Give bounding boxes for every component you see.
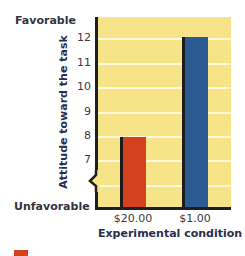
x-axis-line [95, 207, 231, 210]
y-tick-10: 10 [77, 80, 91, 93]
y-tick-8: 8 [77, 129, 91, 142]
gridline-break [96, 185, 231, 187]
y-tick-9: 9 [77, 105, 91, 118]
y-axis-title: Attitude toward the task [57, 35, 70, 189]
legend-swatch [14, 250, 28, 256]
axis-break-icon [86, 170, 100, 192]
bar-20-dollars [120, 137, 146, 208]
x-tick-1-dollar: $1.00 [170, 212, 220, 225]
gridline-9 [96, 112, 231, 114]
bar-1-dollar [182, 37, 208, 208]
gridline-11 [96, 63, 231, 65]
y-tick-11: 11 [77, 56, 91, 69]
gridline-12 [96, 38, 231, 40]
gridline-8 [96, 136, 231, 138]
y-tick-7: 7 [77, 153, 91, 166]
favorable-label: Favorable [15, 14, 76, 27]
gridline-7 [96, 160, 231, 162]
x-axis-title: Experimental condition [98, 227, 242, 240]
plot-area [96, 17, 231, 208]
y-tick-12: 12 [77, 31, 91, 44]
gridline-10 [96, 87, 231, 89]
x-tick-20-dollars: $20.00 [108, 212, 158, 225]
unfavorable-label: Unfavorable [14, 200, 90, 213]
